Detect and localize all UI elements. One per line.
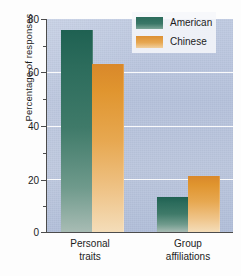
legend-label-american: American [170, 17, 212, 28]
x-category-label-line2: traits [35, 251, 145, 264]
y-tick-label-20: 20 [1, 175, 39, 186]
legend: American Chinese [132, 12, 216, 53]
x-category-label-line2: affiliations [140, 251, 236, 264]
legend-swatch-chinese-icon [136, 36, 163, 48]
x-category-label-line1: Personal [70, 238, 109, 249]
y-tick-label-60: 60 [1, 67, 39, 78]
x-category-label-group-affiliations: Group affiliations [140, 238, 236, 263]
x-axis-line [46, 232, 233, 233]
y-tick-label-40: 40 [1, 121, 39, 132]
y-axis-tick-labels: 80 60 40 20 0 [0, 0, 39, 276]
x-category-label-personal-traits: Personal traits [35, 238, 145, 263]
legend-label-chinese: Chinese [170, 36, 207, 47]
bar-chart-figure: Percentage of responses 80 60 40 20 0 A [0, 0, 241, 276]
legend-item-american: American [136, 15, 212, 30]
bar-american-personal-traits [61, 30, 93, 232]
y-tick-label-80: 80 [1, 14, 39, 25]
bar-chinese-personal-traits [92, 64, 124, 232]
y-tick-label-0: 0 [1, 227, 39, 238]
legend-swatch-american-icon [136, 17, 163, 29]
x-category-label-line1: Group [174, 238, 202, 249]
legend-item-chinese: Chinese [136, 34, 212, 49]
bar-american-group-affiliations [157, 197, 189, 232]
bar-chinese-group-affiliations [188, 176, 220, 232]
